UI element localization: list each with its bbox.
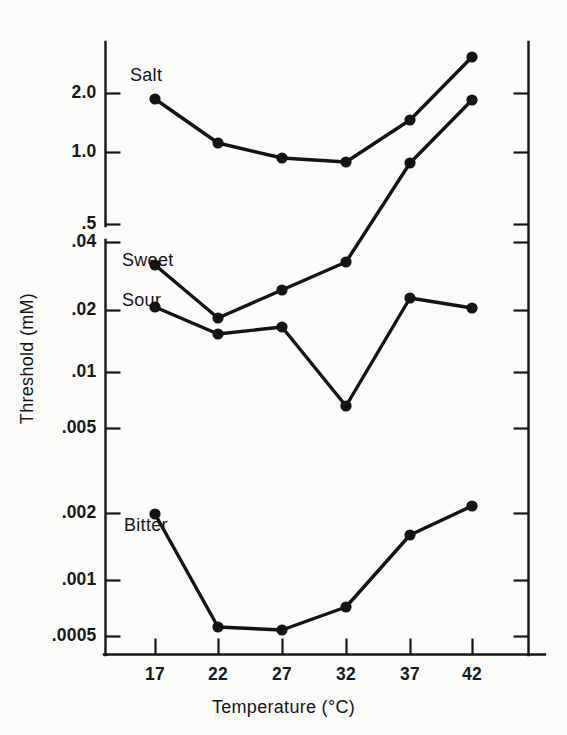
series-label-salt: Salt bbox=[130, 66, 162, 84]
data-point-sour-4 bbox=[404, 292, 415, 303]
data-point-sour-1 bbox=[212, 328, 223, 339]
data-point-sour-5 bbox=[466, 302, 477, 313]
x-tick-label: 27 bbox=[272, 666, 292, 684]
series-label-sour: Sour bbox=[122, 291, 161, 309]
data-point-salt-1 bbox=[212, 137, 223, 148]
y-tick-label: .02 bbox=[0, 301, 97, 319]
y-tick-label: .005 bbox=[0, 419, 97, 437]
data-point-salt-3 bbox=[340, 156, 351, 167]
x-tick-label: 37 bbox=[400, 666, 420, 684]
data-point-bitter-3 bbox=[340, 601, 351, 612]
x-tick-label: 22 bbox=[208, 666, 228, 684]
x-tick-label: 17 bbox=[145, 666, 165, 684]
y-tick-label: .04 bbox=[0, 233, 97, 251]
data-point-salt-4 bbox=[404, 114, 415, 125]
y-axis-title: Threshold (mM) bbox=[17, 259, 38, 459]
y-tick-label: .5 bbox=[0, 215, 97, 233]
data-point-sour-2 bbox=[276, 321, 287, 332]
y-tick-label: .002 bbox=[0, 504, 97, 522]
data-series-group bbox=[149, 51, 477, 635]
data-point-bitter-5 bbox=[466, 500, 477, 511]
data-point-sweet-5 bbox=[466, 94, 477, 105]
x-axis-title: Temperature (°C) bbox=[0, 697, 567, 718]
data-point-salt-5 bbox=[466, 51, 477, 62]
series-line-bitter bbox=[155, 506, 472, 630]
data-point-sweet-4 bbox=[404, 157, 415, 168]
data-point-sweet-3 bbox=[340, 256, 351, 267]
series-label-bitter: Bitter bbox=[124, 516, 168, 534]
data-point-salt-0 bbox=[149, 93, 160, 104]
y-tick-label: 2.0 bbox=[0, 84, 97, 102]
y-tick-label: .0005 bbox=[0, 627, 97, 645]
data-point-sweet-2 bbox=[276, 284, 287, 295]
y-tick-label: .01 bbox=[0, 363, 97, 381]
data-point-sweet-1 bbox=[212, 312, 223, 323]
data-point-sour-3 bbox=[340, 400, 351, 411]
data-point-salt-2 bbox=[276, 152, 287, 163]
x-tick-label: 42 bbox=[462, 666, 482, 684]
x-tick-label: 32 bbox=[336, 666, 356, 684]
axes-group bbox=[104, 42, 545, 655]
series-line-sour bbox=[155, 298, 472, 406]
data-point-bitter-2 bbox=[276, 624, 287, 635]
data-point-bitter-4 bbox=[404, 529, 415, 540]
y-tick-label: 1.0 bbox=[0, 143, 97, 161]
tick-marks-group bbox=[106, 94, 529, 655]
data-point-bitter-1 bbox=[212, 621, 223, 632]
series-label-sweet: Sweet bbox=[122, 251, 174, 269]
chart-figure: 2.01.0.5.04.02.01.005.002.001.0005 17222… bbox=[0, 0, 567, 735]
y-tick-label: .001 bbox=[0, 571, 97, 589]
